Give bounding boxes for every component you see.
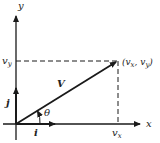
y-component-label: vy — [2, 55, 13, 68]
angle-arc-icon — [38, 111, 41, 124]
y-axis-label: y — [17, 0, 24, 11]
vector-diagram: y x vy vx V (vx, vy) i j θ — [0, 0, 160, 143]
angle-theta-label: θ — [44, 107, 50, 118]
x-axis-label: x — [146, 118, 152, 129]
vector-v-label: V — [57, 78, 66, 89]
vector-v-arrow — [16, 62, 116, 124]
unit-vector-j-label: j — [4, 97, 10, 108]
x-component-label: vx — [112, 127, 122, 140]
unit-vector-i-label: i — [34, 127, 38, 138]
vector-tip-coordinates: (vx, vy) — [122, 57, 153, 69]
